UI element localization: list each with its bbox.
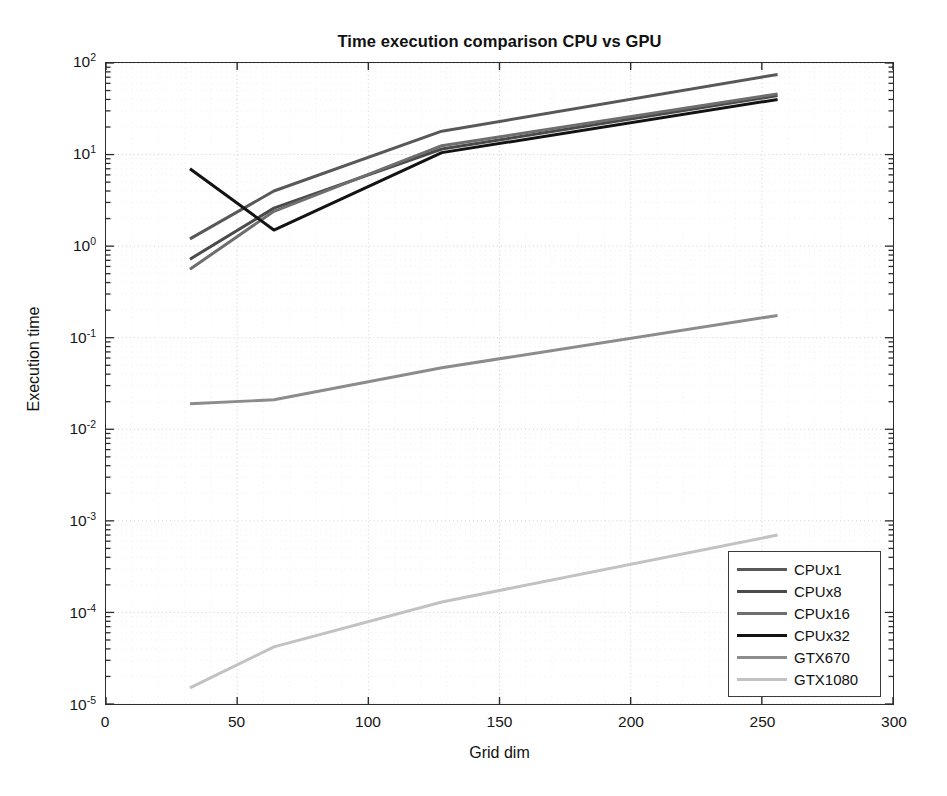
chart-figure: Time execution comparison CPU vs GPU Exe… xyxy=(0,0,947,796)
legend-swatch-cpux8 xyxy=(737,590,787,593)
x-tick-300: 300 xyxy=(881,713,907,731)
legend-swatch-cpux32 xyxy=(737,634,787,637)
y-tick-100: 100 xyxy=(73,237,96,255)
y-tick-102: 102 xyxy=(73,53,96,71)
x-axis-tick-labels: 050100150200250300 xyxy=(105,713,894,737)
series-line-gtx670 xyxy=(190,315,778,403)
legend-item-gtx670[interactable]: GTX670 xyxy=(729,646,880,668)
legend-swatch-cpux16 xyxy=(737,612,787,615)
legend-item-cpux32[interactable]: CPUx32 xyxy=(729,624,880,646)
series-line-cpux8 xyxy=(190,96,778,260)
legend-label: CPUx1 xyxy=(794,562,842,577)
legend-item-cpux8[interactable]: CPUx8 xyxy=(729,580,880,602)
series-line-cpux16 xyxy=(190,94,778,269)
y-axis-tick-labels: 10-510-410-310-210-1100101102 xyxy=(34,62,96,705)
x-tick-200: 200 xyxy=(618,713,644,731)
x-tick-0: 0 xyxy=(101,713,110,731)
legend-swatch-gtx1080 xyxy=(737,678,787,681)
chart-legend: CPUx1CPUx8CPUx16CPUx32GTX670GTX1080 xyxy=(728,551,881,697)
legend-label: CPUx32 xyxy=(794,628,850,643)
y-tick-10-2: 10-2 xyxy=(69,420,96,438)
legend-item-cpux16[interactable]: CPUx16 xyxy=(729,602,880,624)
series-line-cpux1 xyxy=(190,74,778,238)
y-tick-10-5: 10-5 xyxy=(69,696,96,714)
y-tick-10-4: 10-4 xyxy=(69,604,96,622)
series-line-gtx1080 xyxy=(190,535,778,688)
x-tick-100: 100 xyxy=(355,713,381,731)
legend-label: GTX1080 xyxy=(794,672,858,687)
x-axis-label: Grid dim xyxy=(105,744,894,762)
legend-item-cpux1[interactable]: CPUx1 xyxy=(729,558,880,580)
chart-title: Time execution comparison CPU vs GPU xyxy=(105,32,894,51)
y-tick-101: 101 xyxy=(73,145,96,163)
x-tick-50: 50 xyxy=(228,713,245,731)
legend-swatch-cpux1 xyxy=(737,568,787,571)
y-tick-10-1: 10-1 xyxy=(69,329,96,347)
legend-label: CPUx16 xyxy=(794,606,850,621)
legend-item-gtx1080[interactable]: GTX1080 xyxy=(729,668,880,690)
y-tick-10-3: 10-3 xyxy=(69,512,96,530)
legend-swatch-gtx670 xyxy=(737,656,787,659)
x-tick-250: 250 xyxy=(750,713,776,731)
legend-label: CPUx8 xyxy=(794,584,842,599)
legend-label: GTX670 xyxy=(794,650,850,665)
x-tick-150: 150 xyxy=(487,713,513,731)
